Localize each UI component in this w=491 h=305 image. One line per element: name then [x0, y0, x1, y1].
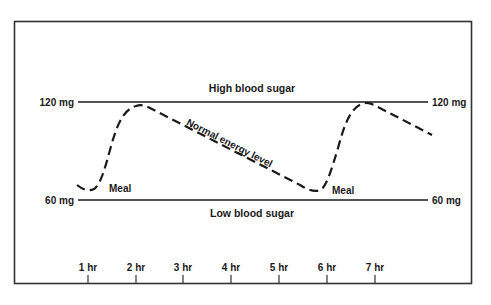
high-blood-sugar-label: High blood sugar	[209, 82, 295, 94]
meal-label-1: Meal	[109, 183, 131, 194]
low-blood-sugar-label: Low blood sugar	[210, 207, 294, 219]
tick-label-7hr: 7 hr	[366, 262, 384, 273]
tick-label-6hr: 6 hr	[318, 262, 336, 273]
blood-sugar-diagram: 120 mg 120 mg High blood sugar 60 mg 60 …	[0, 0, 491, 305]
low-level-label-right: 60 mg	[432, 195, 461, 206]
tick-label-3hr: 3 hr	[174, 262, 192, 273]
meal-label-2: Meal	[332, 185, 354, 196]
normal-energy-level-label: Normal energy level	[185, 116, 275, 169]
low-level-label-left: 60 mg	[45, 195, 74, 206]
time-axis: 1 hr 2 hr 3 hr 4 hr 5 hr 6 hr 7 hr	[79, 262, 384, 283]
high-level-label-right: 120 mg	[432, 97, 466, 108]
energy-level-curve	[77, 103, 432, 191]
tick-label-1hr: 1 hr	[79, 262, 97, 273]
high-level-label-left: 120 mg	[40, 97, 74, 108]
tick-label-4hr: 4 hr	[222, 262, 240, 273]
tick-label-5hr: 5 hr	[270, 262, 288, 273]
tick-label-2hr: 2 hr	[127, 262, 145, 273]
